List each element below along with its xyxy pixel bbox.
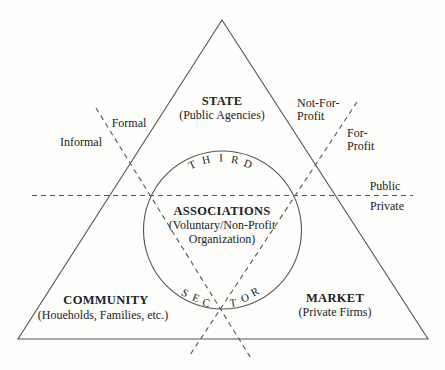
associations-sublabel-line1: (Voluntary/Non-Profit — [169, 219, 275, 232]
private-label: Private — [370, 200, 404, 213]
state-sublabel: (Public Agencies) — [179, 109, 265, 122]
associations-sublabel-line2: Organization) — [189, 233, 255, 246]
associations-label: ASSOCIATIONS — [173, 205, 270, 218]
for-profit-label: For- Profit — [347, 127, 374, 153]
market-sublabel: (Private Firms) — [299, 306, 372, 319]
triangle-outline — [18, 20, 428, 339]
community-label: COMMUNITY — [63, 294, 148, 307]
formal-label: Formal — [112, 117, 147, 130]
state-label: STATE — [202, 95, 243, 108]
arc-letter-third-i: I — [219, 152, 223, 163]
market-label: MARKET — [306, 292, 364, 305]
not-for-profit-label: Not-For- Profit — [297, 97, 339, 123]
public-label: Public — [370, 180, 401, 193]
community-sublabel: (Houeholds, Families, etc.) — [38, 309, 168, 322]
welfare-triangle-diagram: STATE (Public Agencies) ASSOCIATIONS (Vo… — [0, 0, 445, 370]
for-profit-label-line2: Profit — [347, 140, 374, 153]
arc-letter-sector-t: T — [229, 297, 237, 309]
not-for-profit-label-line2: Profit — [297, 110, 339, 123]
informal-label: Informal — [60, 136, 102, 149]
